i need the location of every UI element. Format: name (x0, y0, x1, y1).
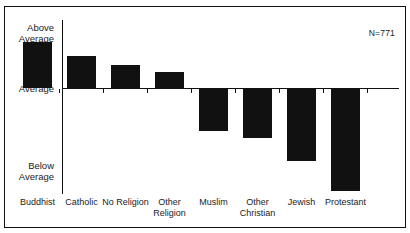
x-axis-tick (235, 89, 236, 93)
x-axis-label-catholic: Catholic (57, 197, 107, 208)
bar-catholic (67, 56, 96, 88)
bar-buddhist (23, 42, 52, 88)
figure-title-clipped (0, 0, 410, 5)
bar-chart: Above Average Average Below Average N=77… (5, 7, 405, 227)
bar-jewish (287, 89, 316, 161)
sample-size-annotation: N=771 (369, 28, 395, 38)
x-axis-label-jewish: Jewish (277, 197, 327, 208)
bar-muslim (199, 89, 228, 131)
bar-protestant (331, 89, 360, 191)
y-axis-label-below-average: Below Average (19, 160, 54, 182)
x-axis-label-buddhist: Buddhist (13, 197, 63, 208)
x-axis-tick (191, 89, 192, 93)
x-axis-tick (59, 89, 60, 93)
x-axis-label-protestant: Protestant (321, 197, 371, 208)
bar-no-religion (111, 65, 140, 88)
x-axis-label-muslim: Muslim (189, 197, 239, 208)
x-axis-tick (367, 89, 368, 93)
y-axis-label-above-average: Above Average (19, 22, 54, 44)
x-axis-tick (103, 89, 104, 93)
x-axis-tick (147, 89, 148, 93)
figure-frame: Above Average Average Below Average N=77… (4, 6, 406, 228)
x-axis-tick (323, 89, 324, 93)
bar-other-religion (155, 72, 184, 88)
x-axis-label-no-religion: No Religion (101, 197, 151, 208)
x-axis-label-other-religion: Other Religion (145, 197, 195, 218)
x-axis-label-other-christian: Other Christian (233, 197, 283, 218)
x-axis-tick (279, 89, 280, 93)
bar-other-christian (243, 89, 272, 138)
